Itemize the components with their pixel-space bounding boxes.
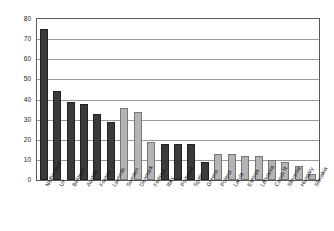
x-axis-tick-label: Italy <box>166 176 176 188</box>
y-axis-tick-label: 30 <box>24 116 31 123</box>
bar-slot <box>306 19 319 180</box>
x-axis-tick-label: UK <box>59 178 68 187</box>
bars-group <box>37 19 319 180</box>
y-axis-tick-label: 20 <box>24 137 31 144</box>
bar-slot <box>252 19 265 180</box>
bar-chart: 01020304050607080 NetherlandUKBelgiumAus… <box>0 0 334 231</box>
bar-slot <box>37 19 50 180</box>
x-axis: NetherlandUKBelgiumAustriaFranceLuxemb.S… <box>37 183 319 231</box>
bar-slot <box>104 19 117 180</box>
bar-slot <box>212 19 225 180</box>
y-axis: 01020304050607080 <box>0 0 34 199</box>
y-axis-tick-label: 70 <box>24 36 31 43</box>
bar-slot <box>91 19 104 180</box>
y-axis-tick-label: 0 <box>27 177 31 184</box>
bar-slot <box>279 19 292 180</box>
bar[interactable] <box>67 102 75 180</box>
bar-slot <box>144 19 157 180</box>
bar-slot <box>50 19 63 180</box>
y-axis-tick-label: 40 <box>24 96 31 103</box>
bar-slot <box>77 19 90 180</box>
y-axis-tick-label: 10 <box>24 157 31 164</box>
bar-slot <box>265 19 278 180</box>
bar-slot <box>131 19 144 180</box>
y-axis-tick-label: 50 <box>24 76 31 83</box>
bar-slot <box>198 19 211 180</box>
bar[interactable] <box>174 144 182 180</box>
y-axis-tick-label: 80 <box>24 16 31 23</box>
bar-slot <box>118 19 131 180</box>
bar-slot <box>64 19 77 180</box>
bar-slot <box>185 19 198 180</box>
y-axis-tick-label: 60 <box>24 56 31 63</box>
bar[interactable] <box>40 29 48 180</box>
bar-slot <box>238 19 251 180</box>
bar-slot <box>158 19 171 180</box>
bar-slot <box>225 19 238 180</box>
bar-slot <box>292 19 305 180</box>
bar-slot <box>171 19 184 180</box>
